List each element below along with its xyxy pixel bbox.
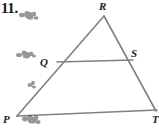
point-label-S: S bbox=[131, 48, 137, 59]
vertex-label-P: P bbox=[3, 114, 10, 125]
segment-QS bbox=[57, 60, 133, 62]
triangle-diagram bbox=[0, 0, 159, 129]
segment-RP bbox=[17, 16, 104, 116]
vertex-label-R: R bbox=[99, 1, 106, 12]
vertex-label-T: T bbox=[152, 114, 159, 125]
segment-PT bbox=[17, 110, 157, 116]
geometry-figure: 11. R S Q P T bbox=[0, 0, 159, 129]
point-label-Q: Q bbox=[40, 57, 48, 68]
segment-RT bbox=[104, 16, 156, 111]
triangle-outline bbox=[17, 16, 157, 116]
